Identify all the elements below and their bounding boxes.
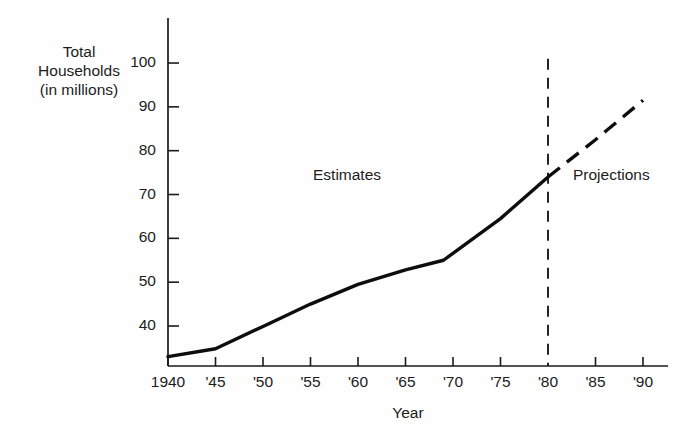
axes-group <box>168 18 668 366</box>
chart-container: Total Households (in millions) Year Esti… <box>0 0 690 434</box>
x-axis-tick-marks <box>168 357 643 366</box>
estimates-line <box>168 177 548 357</box>
y-axis-tick-marks <box>168 63 179 326</box>
projections-line <box>548 100 643 177</box>
chart-plot-area <box>0 0 690 434</box>
